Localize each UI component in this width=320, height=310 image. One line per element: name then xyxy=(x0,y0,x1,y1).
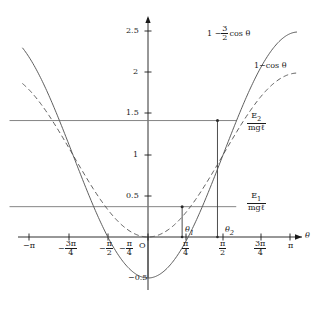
y-tick-label-2-5: 2.5 xyxy=(126,27,139,35)
energy-denominator-E2: mgℓ xyxy=(247,123,266,132)
curve-dashed-one-minus-cos xyxy=(22,73,297,237)
turning-point-label-theta2: θ2 xyxy=(225,226,234,236)
minus-sign: − xyxy=(119,245,126,253)
curve-label-solid-prefix: 1 − xyxy=(207,30,221,38)
figure-canvas: 2.5 2 1.5 1 0.5 −0.5 O −π −3π4 −π2 −π4 π… xyxy=(0,0,320,310)
axis-dot-theta1 xyxy=(181,236,184,239)
numerator: π xyxy=(219,240,226,248)
curve-label-dashed: 1−cos θ xyxy=(254,62,287,70)
denominator: 4 xyxy=(182,248,189,257)
x-tick-label-neg-pi-over-4: −π4 xyxy=(119,240,133,258)
denominator: 4 xyxy=(254,248,266,257)
energy-numerator-E2: E2 xyxy=(247,112,266,123)
curve-label-solid: 1 −32cos θ xyxy=(207,25,250,43)
y-tick-label-1-5: 1.5 xyxy=(126,109,139,117)
y-tick-label-1: 1 xyxy=(133,151,138,159)
energy-numerator-E1: E1 xyxy=(247,192,266,203)
minus-sign: − xyxy=(58,245,65,253)
denominator: 2 xyxy=(106,248,113,257)
numerator: π xyxy=(182,240,189,248)
intersection-dot-theta2 xyxy=(216,119,219,122)
energy-level-label-E1: E1 mgℓ xyxy=(247,192,266,212)
y-tick-label-neg-0-5: −0.5 xyxy=(128,274,147,282)
plot-svg xyxy=(0,0,320,310)
denominator: 2 xyxy=(219,248,226,257)
y-tick-label-0-5: 0.5 xyxy=(126,192,139,200)
x-tick-label-pi: π xyxy=(288,242,293,250)
intersection-dot-theta1 xyxy=(181,205,184,208)
energy-level-label-E2: E2 mgℓ xyxy=(247,112,266,132)
denominator: 4 xyxy=(126,248,133,257)
curve-label-solid-suffix: cos θ xyxy=(228,30,250,38)
numerator: π xyxy=(106,240,113,248)
x-tick-label-pi-over-4: π4 xyxy=(182,240,189,258)
energy-denominator-E1: mgℓ xyxy=(247,203,266,212)
x-axis-label: θ xyxy=(305,232,310,240)
numerator: 3π xyxy=(65,240,77,248)
minus-sign: − xyxy=(99,245,106,253)
x-tick-label-3pi-over-4: 3π4 xyxy=(254,240,266,258)
x-tick-label-neg-3pi-over-4: −3π4 xyxy=(58,240,77,258)
numerator: π xyxy=(126,240,133,248)
numerator: 3 xyxy=(221,25,228,33)
turning-point-label-theta1: θ1 xyxy=(185,226,194,236)
numerator: 3π xyxy=(254,240,266,248)
origin-label: O xyxy=(139,242,146,250)
y-tick-label-2: 2 xyxy=(133,68,138,76)
x-tick-label-neg-pi: −π xyxy=(23,242,35,250)
denominator: 2 xyxy=(221,33,228,42)
axis-dot-theta2 xyxy=(216,236,219,239)
denominator: 4 xyxy=(65,248,77,257)
x-tick-label-pi-over-2: π2 xyxy=(219,240,226,258)
x-tick-label-neg-pi-over-2: −π2 xyxy=(99,240,113,258)
